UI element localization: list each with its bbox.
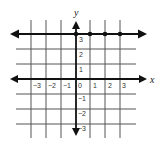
x-axis-left-arrow-icon (10, 75, 18, 83)
y-tick: −3 (78, 125, 86, 132)
coordinate-plane: x y −3 −2 −1 0 1 2 3 3 2 1 −1 −2 −3 (0, 0, 163, 149)
x-tick: −3 (33, 82, 41, 89)
x-axis-right-arrow-icon (139, 75, 147, 83)
x-tick-labels: −3 −2 −1 0 1 2 3 (33, 82, 126, 89)
data-point (103, 32, 108, 37)
y-tick: −1 (78, 95, 86, 102)
data-point (118, 32, 123, 37)
x-tick: 0 (78, 82, 82, 89)
y-tick: −2 (78, 110, 86, 117)
x-axis: x (10, 74, 155, 85)
x-tick: 2 (108, 82, 112, 89)
y-axis-up-arrow-icon (72, 21, 80, 29)
x-tick: −2 (48, 82, 56, 89)
x-tick: 1 (93, 82, 97, 89)
y-tick: 2 (79, 51, 83, 58)
x-tick: 3 (122, 82, 126, 89)
y-axis-label: y (73, 7, 79, 18)
y-tick: 3 (79, 36, 83, 43)
data-point (88, 32, 93, 37)
x-axis-label: x (149, 74, 155, 85)
y-tick: 1 (79, 66, 83, 73)
line-right-arrow-icon (138, 30, 147, 39)
x-tick: −1 (63, 82, 71, 89)
data-point (74, 32, 79, 37)
line-left-arrow-icon (10, 30, 19, 39)
